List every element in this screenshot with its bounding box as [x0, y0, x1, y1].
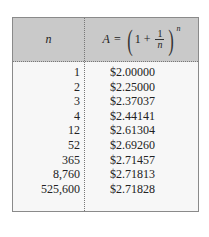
formula-one: 1	[135, 32, 141, 47]
formula-lhs: A	[103, 32, 110, 47]
cell-amount: $2.71813	[110, 167, 155, 182]
cell-n: 12	[68, 123, 80, 138]
table-row: 1$2.00000	[13, 65, 198, 80]
header-n: n	[13, 18, 84, 61]
cell-n: 525,600	[41, 182, 80, 197]
table-row: 12$2.61304	[13, 123, 198, 138]
cell-amount: $2.61304	[110, 123, 155, 138]
cell-n: 1	[74, 65, 80, 80]
table-row: 52$2.69260	[13, 138, 198, 153]
cell-amount: $2.71828	[110, 182, 155, 197]
formula-exponent: n	[176, 24, 180, 33]
cell-amount: $2.69260	[110, 138, 155, 153]
cell-amount: $2.71457	[110, 153, 155, 168]
cell-amount: $2.25000	[110, 80, 155, 95]
table-header: n A = ( 1 + 1 n ) n	[13, 18, 198, 62]
table-body: 1$2.00000 2$2.25000 3$2.37037 4$2.44141 …	[13, 65, 198, 196]
table-row: 8,760$2.71813	[13, 167, 198, 182]
header-formula: A = ( 1 + 1 n ) n	[85, 18, 198, 61]
cell-n: 8,760	[53, 167, 80, 182]
table-row: 4$2.44141	[13, 109, 198, 124]
cell-n: 4	[74, 109, 80, 124]
compound-interest-table: n A = ( 1 + 1 n ) n 1$2.00000 2$2.25000 …	[12, 17, 199, 212]
fraction-denominator: n	[157, 40, 162, 51]
cell-amount: $2.44141	[110, 109, 155, 124]
table-row: 3$2.37037	[13, 94, 198, 109]
formula-equals: =	[114, 32, 121, 47]
cell-amount: $2.00000	[110, 65, 155, 80]
table-row: 365$2.71457	[13, 153, 198, 168]
formula-plus: +	[144, 32, 151, 47]
table-row: 525,600$2.71828	[13, 182, 198, 197]
left-paren-icon: (	[127, 25, 133, 55]
table-row: 2$2.25000	[13, 80, 198, 95]
right-paren-icon: )	[169, 25, 175, 55]
cell-amount: $2.37037	[110, 94, 155, 109]
cell-n: 3	[74, 94, 80, 109]
cell-n: 2	[74, 80, 80, 95]
cell-n: 365	[62, 153, 80, 168]
cell-n: 52	[68, 138, 80, 153]
formula-fraction: 1 n	[155, 29, 164, 51]
